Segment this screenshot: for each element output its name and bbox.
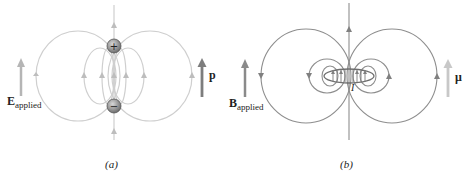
magnetic-moment-arrow bbox=[444, 59, 453, 97]
current-label: I bbox=[351, 82, 354, 93]
applied-electric-field-label: Eapplied bbox=[7, 94, 42, 109]
caption-a: (a) bbox=[105, 158, 118, 170]
applied-magnetic-field-label: Bapplied bbox=[229, 96, 264, 111]
svg-text:−: − bbox=[110, 101, 118, 112]
dipole-moment-arrow bbox=[198, 58, 207, 97]
magnetic-moment-label: μ bbox=[455, 70, 462, 85]
dipole-moment-label: p bbox=[209, 68, 216, 83]
svg-text:+: + bbox=[110, 41, 118, 52]
applied-magnetic-field-arrow bbox=[241, 59, 249, 97]
caption-b: (b) bbox=[340, 158, 353, 170]
applied-electric-field-arrow bbox=[17, 58, 25, 96]
negative-charge: − bbox=[107, 99, 121, 113]
panel-b-field-lines bbox=[261, 3, 437, 140]
positive-charge: + bbox=[107, 39, 121, 53]
dipole-diagram: + − bbox=[0, 0, 464, 180]
